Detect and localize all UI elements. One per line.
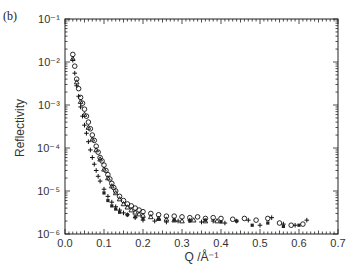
data-point	[141, 217, 144, 220]
x-tick-label: 0.5	[252, 237, 267, 249]
y-axis: 10⁻⁶10⁻⁵10⁻⁴10⁻³10⁻²10⁻¹Reflectivity	[13, 13, 338, 240]
plot-frame	[65, 19, 338, 234]
data-point	[235, 219, 238, 222]
data-point	[76, 94, 81, 99]
x-tick-label: 0.3	[174, 237, 189, 249]
data-point	[219, 216, 224, 221]
data-point	[88, 148, 93, 153]
data-point	[204, 219, 207, 222]
y-tick-label: 10⁻⁴	[37, 142, 60, 154]
data-point	[254, 218, 259, 223]
reflectivity-chart: 0.00.10.20.30.40.50.60.7Q /Å⁻¹10⁻⁶10⁻⁵10…	[0, 0, 354, 275]
data-point	[173, 219, 176, 222]
data-point	[114, 207, 117, 210]
y-tick-label: 10⁻¹	[38, 13, 60, 25]
data-point	[96, 174, 101, 179]
data-point	[282, 225, 285, 228]
data-point	[80, 114, 85, 119]
data-point	[157, 218, 160, 221]
data-point	[301, 222, 306, 227]
data-point	[134, 215, 137, 218]
data-point	[223, 221, 228, 226]
data-point	[258, 223, 263, 228]
data-point	[305, 218, 310, 223]
x-tick-label: 0.7	[330, 237, 345, 249]
data-point	[251, 224, 254, 227]
x-tick-label: 0.2	[135, 237, 150, 249]
y-tick-label: 10⁻³	[38, 99, 60, 111]
data-point	[219, 220, 222, 223]
data-point	[118, 211, 121, 214]
data-point	[110, 200, 115, 205]
data-point	[102, 187, 107, 192]
data-point	[293, 223, 298, 228]
data-point	[72, 64, 77, 69]
data-point	[266, 216, 271, 221]
x-axis: 0.00.10.20.30.40.50.60.7Q /Å⁻¹	[57, 19, 345, 264]
y-tick-label: 10⁻⁵	[37, 185, 60, 197]
data-point	[106, 199, 109, 202]
series-plus	[71, 58, 310, 228]
data-point	[102, 191, 105, 194]
y-tick-label: 10⁻²	[38, 56, 60, 68]
data-point	[297, 224, 300, 227]
x-tick-label: 0.4	[213, 237, 228, 249]
data-point	[98, 179, 103, 184]
series-triangles	[71, 56, 220, 223]
data-point	[106, 194, 111, 199]
data-point	[199, 220, 204, 225]
x-axis-label: Q /Å⁻¹	[184, 249, 218, 264]
data-point	[90, 155, 95, 160]
x-tick-label: 0.1	[96, 237, 111, 249]
y-tick-label: 10⁻⁶	[37, 228, 60, 240]
data-point	[84, 131, 89, 136]
data-point	[266, 221, 269, 224]
data-point	[72, 71, 77, 76]
data-point	[277, 221, 282, 226]
data-point	[188, 219, 191, 222]
data-point	[110, 204, 113, 207]
data-point	[126, 213, 129, 216]
data-point	[113, 191, 118, 195]
y-axis-label: Reflectivity	[13, 99, 27, 157]
data-point	[82, 107, 87, 112]
data-point	[94, 168, 99, 173]
data-point	[92, 162, 97, 167]
data-point	[86, 120, 91, 125]
data-point	[195, 215, 200, 220]
series-circles	[71, 52, 306, 227]
x-tick-label: 0.6	[291, 237, 306, 249]
